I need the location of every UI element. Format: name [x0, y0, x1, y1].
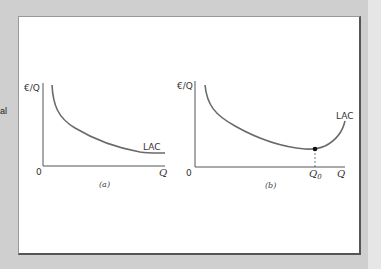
chart-a: €/Q LAC 0 Q (a)	[24, 83, 167, 189]
lac-label-b: LAC	[336, 111, 354, 121]
q0-sub: 0	[317, 173, 322, 181]
q0-label: Q0	[309, 168, 322, 181]
x-label-a: Q	[159, 167, 167, 178]
caption-b: (b)	[265, 181, 276, 190]
figure-svg: €/Q LAC 0 Q (a) €/Q LAC 0 Q0 Q (b)	[0, 0, 381, 269]
origin-label-b: 0	[186, 168, 192, 178]
q0-main: Q	[309, 168, 317, 179]
caption-a: (a)	[99, 180, 110, 189]
chart-b: €/Q LAC 0 Q0 Q (b)	[177, 81, 354, 190]
origin-label-a: 0	[36, 167, 42, 177]
x-label-b: Q	[337, 168, 345, 179]
lac-label-a: LAC	[143, 142, 161, 152]
y-label-b: €/Q	[177, 81, 193, 91]
lac-curve-b	[205, 85, 345, 149]
y-label-a: €/Q	[24, 83, 40, 93]
min-point	[313, 147, 318, 152]
